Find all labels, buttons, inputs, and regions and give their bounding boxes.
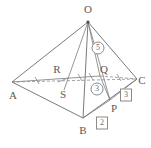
- edge-group-solid: [12, 22, 137, 118]
- annotation-circled-3: 3: [91, 83, 104, 96]
- vertex-dot-group: [86, 20, 89, 23]
- edge-OS: [64, 22, 88, 90]
- tick-mark-group: [35, 73, 121, 84]
- annotation-boxed-2: 2: [96, 117, 108, 130]
- annotation-circled-5: 5: [92, 42, 105, 55]
- vertex-label-O: O: [84, 4, 92, 15]
- edge-BP: [83, 100, 110, 118]
- vertex-dot-O: [86, 20, 89, 23]
- vertex-label-C: C: [138, 75, 145, 86]
- vertex-label-A: A: [9, 90, 17, 101]
- edge-AB: [12, 82, 83, 118]
- geometry-figure: O A B C P Q R S 5 3 3 2: [0, 0, 151, 148]
- figure-canvas: [0, 0, 151, 148]
- vertex-label-P: P: [111, 103, 117, 114]
- vertex-label-B: B: [79, 125, 86, 136]
- edge-OB: [83, 22, 88, 118]
- edge-OA: [12, 22, 88, 82]
- vertex-label-R: R: [53, 64, 60, 75]
- edge-AQ: [12, 76, 100, 82]
- vertex-label-Q: Q: [100, 64, 108, 75]
- annotation-boxed-3: 3: [120, 89, 132, 102]
- vertex-label-S: S: [60, 89, 66, 100]
